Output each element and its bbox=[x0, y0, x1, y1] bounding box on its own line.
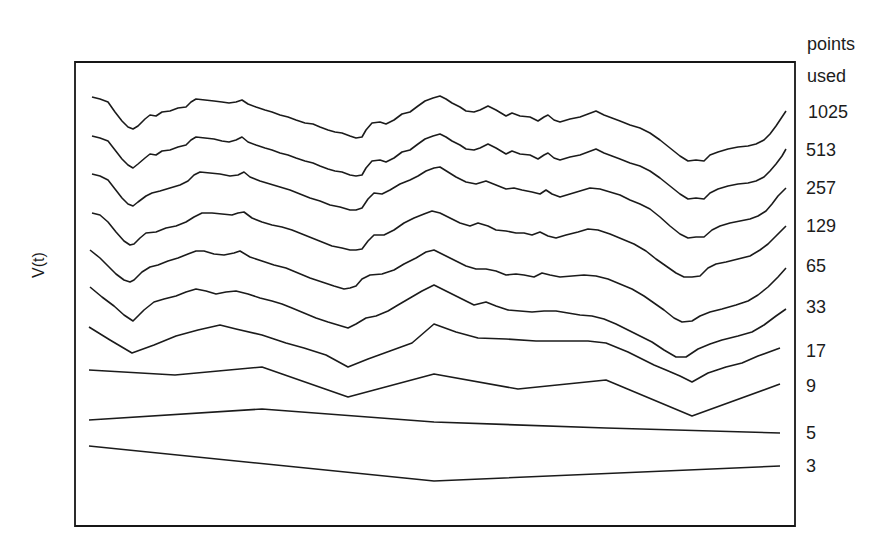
series-line-5 bbox=[89, 409, 780, 433]
series-label-5: 5 bbox=[806, 424, 816, 442]
series-label-65: 65 bbox=[806, 257, 826, 275]
series-line-1025 bbox=[92, 96, 786, 161]
series-label-9: 9 bbox=[806, 377, 816, 395]
series-line-129 bbox=[92, 211, 786, 277]
series-line-3 bbox=[89, 446, 780, 481]
legend-title-used: used bbox=[807, 67, 846, 85]
series-label-33: 33 bbox=[806, 298, 826, 316]
series-label-257: 257 bbox=[806, 179, 836, 197]
series-label-17: 17 bbox=[806, 342, 826, 360]
series-line-65 bbox=[90, 250, 786, 322]
series-label-129: 129 bbox=[806, 217, 836, 235]
y-axis-label: V(t) bbox=[30, 252, 48, 278]
series-label-513: 513 bbox=[806, 141, 836, 159]
series-line-257 bbox=[92, 167, 786, 238]
chart-plot-area bbox=[0, 0, 896, 558]
series-lines bbox=[89, 96, 786, 481]
series-label-1025: 1025 bbox=[808, 103, 848, 121]
series-label-3: 3 bbox=[806, 457, 816, 475]
legend-title-points: points bbox=[807, 35, 855, 53]
